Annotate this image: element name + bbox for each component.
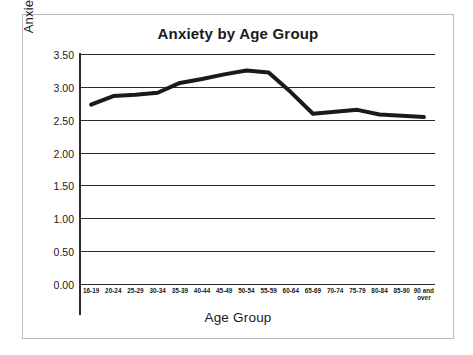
y-tick-label: 1.00: [54, 213, 74, 225]
gridline: 0.00: [80, 284, 435, 285]
anxiety-rating-line-series: [80, 54, 435, 284]
x-tick-label: 25-29: [127, 287, 143, 294]
x-tick-label: 60-64: [283, 287, 299, 294]
y-tick-label: 2.50: [54, 115, 74, 127]
x-tick-label: 90 and over: [413, 287, 435, 302]
y-tick-label: 1.50: [54, 180, 74, 192]
y-tick-label: 3.00: [54, 82, 74, 94]
y-tick-label: 2.00: [54, 148, 74, 160]
x-tick-label: 55-59: [260, 287, 276, 294]
x-tick-label: 50-54: [238, 287, 254, 294]
x-tick-label: 80-84: [371, 287, 387, 294]
x-tick-label: 65-69: [305, 287, 321, 294]
chart-title: Anxiety by Age Group: [23, 25, 453, 42]
x-tick-label: 75-79: [349, 287, 365, 294]
x-tick-label: 45-49: [216, 287, 232, 294]
series-polyline: [91, 70, 424, 117]
chart-frame: Anxiety by Age Group Anxiety Rating 0.00…: [22, 14, 454, 339]
x-tick-label: 16-19: [83, 287, 99, 294]
x-tick-label: 40-44: [194, 287, 210, 294]
y-tick-label: 0.50: [54, 246, 74, 258]
x-tick-label: 20-24: [105, 287, 121, 294]
plot-area: 0.000.501.001.502.002.503.003.50: [80, 54, 435, 284]
y-tick-label: 0.00: [54, 279, 74, 291]
y-axis-title: Anxiety Rating: [21, 0, 39, 65]
x-tick-label: 70-74: [327, 287, 343, 294]
x-axis-title: Age Group: [23, 310, 453, 325]
x-tick-label: 30-34: [149, 287, 165, 294]
x-tick-label: 35-39: [172, 287, 188, 294]
x-tick-label: 85-90: [394, 287, 410, 294]
y-tick-label: 3.50: [54, 49, 74, 61]
